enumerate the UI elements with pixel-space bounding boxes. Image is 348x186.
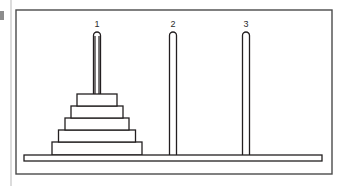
peg-2-label: 2 [170,19,175,29]
tower-of-hanoi-figure: 1 2 3 [0,0,348,186]
peg-1-label: 1 [94,19,99,29]
peg-2[interactable] [170,32,177,156]
peg-3-label: 3 [243,19,248,29]
disk-4[interactable] [59,130,136,142]
page-margin-artifact [0,11,4,20]
base-bar [24,155,322,161]
disk-3[interactable] [65,118,129,130]
disk-2[interactable] [71,106,123,118]
disk-5[interactable] [52,142,142,155]
figure-canvas: 1 2 3 [0,0,348,186]
peg-3[interactable] [243,32,250,156]
disk-1[interactable] [77,94,117,106]
